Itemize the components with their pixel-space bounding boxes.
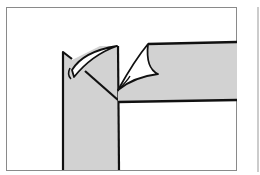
- corner-strips-illustration: [0, 0, 260, 175]
- vertical-strip: [63, 46, 119, 170]
